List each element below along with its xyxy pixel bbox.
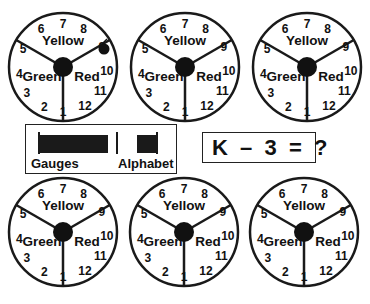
- gauge-number: 11: [94, 249, 107, 263]
- zone-label-yellow: Yellow: [286, 33, 329, 48]
- gauge-number: 5: [141, 207, 148, 221]
- gauge-number: 10: [100, 64, 114, 78]
- gauge-number: 9: [99, 205, 106, 219]
- zone-label-green: Green: [22, 234, 61, 249]
- gauge-3: 123456789101112YellowGreenRed: [253, 13, 361, 121]
- alphabet-label: Alphabet: [118, 156, 174, 171]
- zone-label-yellow: Yellow: [42, 198, 85, 213]
- zone-label-yellow: Yellow: [42, 33, 85, 48]
- alphabet-bar-right-tick: [156, 132, 158, 154]
- gauge-number: 11: [216, 84, 229, 98]
- gauge-number: 1: [304, 105, 311, 119]
- zone-label-red: Red: [74, 69, 100, 84]
- gauge-number: 10: [100, 229, 114, 243]
- gauge-number: 10: [344, 64, 358, 78]
- gauge-6: 123456789101112YellowGreenRed: [250, 178, 358, 286]
- gauge-number: 9: [220, 205, 227, 219]
- gauge-number: 3: [145, 251, 152, 265]
- zone-label-green: Green: [143, 234, 182, 249]
- gauge-number: 3: [24, 251, 31, 265]
- gauge-number: 9: [221, 40, 228, 54]
- gauges-label: Gauges: [31, 156, 79, 171]
- gauge-number: 7: [181, 182, 188, 196]
- gauge-number: 3: [265, 251, 272, 265]
- gauge-4: 123456789101112YellowGreenRed: [9, 178, 117, 286]
- gauge-number: 3: [24, 86, 31, 100]
- gauge-number: 2: [282, 265, 289, 279]
- pointer-marker-icon: [99, 44, 110, 55]
- zone-label-yellow: Yellow: [283, 198, 326, 213]
- gauge-number: 5: [20, 207, 27, 221]
- equation-text: K – 3 = ?: [212, 135, 328, 161]
- gauge-number: 12: [200, 99, 214, 113]
- gauge-number: 11: [335, 249, 348, 263]
- gauge-number: 3: [146, 86, 153, 100]
- zone-label-red: Red: [195, 234, 221, 249]
- zone-label-red: Red: [196, 69, 222, 84]
- zone-label-red: Red: [74, 234, 100, 249]
- gauge-number: 3: [268, 86, 275, 100]
- gauge-5: 123456789101112YellowGreenRed: [130, 178, 238, 286]
- gauge-number: 7: [182, 17, 189, 31]
- gauge-number: 1: [301, 270, 308, 284]
- equation-box: K – 3 = ?: [202, 132, 316, 163]
- gauge-number: 1: [60, 105, 67, 119]
- gauge-number: 7: [60, 17, 67, 31]
- zone-label-green: Green: [263, 234, 302, 249]
- zone-label-green: Green: [22, 69, 61, 84]
- gauge-number: 10: [341, 229, 355, 243]
- alphabet-progress-bar: [137, 135, 157, 153]
- zone-label-yellow: Yellow: [163, 198, 206, 213]
- gauge-number: 10: [222, 64, 236, 78]
- gauge-number: 12: [322, 99, 336, 113]
- gauge-number: 11: [338, 84, 351, 98]
- gauge-number: 2: [41, 265, 48, 279]
- gauge-number: 11: [215, 249, 228, 263]
- gauge-number: 5: [142, 42, 149, 56]
- gauge-number: 10: [221, 229, 235, 243]
- gauge-number: 11: [94, 84, 107, 98]
- gauge-number: 12: [78, 99, 92, 113]
- zone-label-green: Green: [144, 69, 183, 84]
- gauge-number: 9: [340, 205, 347, 219]
- gauge-number: 2: [41, 100, 48, 114]
- gauge-2: 123456789101112YellowGreenRed: [131, 13, 239, 121]
- gauge-number: 7: [301, 182, 308, 196]
- gauges-progress-bar: [40, 135, 108, 153]
- gauge-number: 1: [181, 270, 188, 284]
- gauge-number: 5: [264, 42, 271, 56]
- gauge-number: 5: [261, 207, 268, 221]
- gauge-number: 12: [78, 264, 92, 278]
- zone-label-red: Red: [315, 234, 341, 249]
- gauge-1: 123456789101112YellowGreenRed: [9, 13, 117, 121]
- gauge-number: 2: [163, 100, 170, 114]
- gauge-number: 7: [60, 182, 67, 196]
- gauge-number: 9: [343, 40, 350, 54]
- legend-divider: [116, 132, 118, 154]
- zone-label-red: Red: [318, 69, 344, 84]
- gauge-number: 1: [182, 105, 189, 119]
- gauge-number: 2: [285, 100, 292, 114]
- legend-panel: Gauges Alphabet: [25, 124, 177, 174]
- gauge-number: 12: [319, 264, 333, 278]
- zone-label-yellow: Yellow: [164, 33, 207, 48]
- gauge-number: 2: [162, 265, 169, 279]
- gauge-number: 5: [20, 42, 27, 56]
- gauge-number: 7: [304, 17, 311, 31]
- gauge-number: 1: [60, 270, 67, 284]
- zone-label-green: Green: [266, 69, 305, 84]
- gauge-number: 12: [199, 264, 213, 278]
